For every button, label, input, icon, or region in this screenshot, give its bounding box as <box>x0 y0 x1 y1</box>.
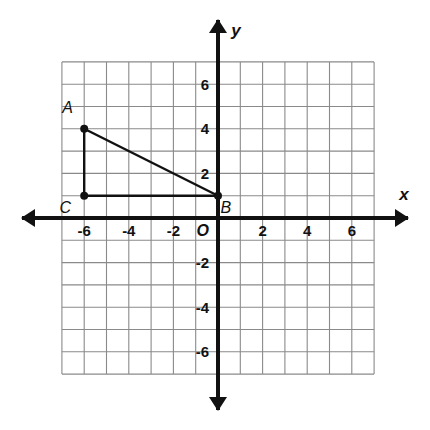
x-axis-arrow-right <box>395 209 409 227</box>
y-tick-label: 6 <box>201 76 209 93</box>
x-axis-arrow-left <box>21 209 35 227</box>
origin-label: O <box>197 222 210 239</box>
y-axis-arrow-up <box>209 19 227 33</box>
y-tick-label: 4 <box>201 120 210 137</box>
point-label-a: A <box>61 99 73 116</box>
y-tick-label: -6 <box>196 343 209 360</box>
x-tick-label: 6 <box>348 222 356 239</box>
coordinate-plane-figure: -6-4-2246642-2-4-6O xy ABC <box>0 0 430 430</box>
x-tick-label: -4 <box>122 222 136 239</box>
x-tick-label: 2 <box>258 222 266 239</box>
plotted-point-c <box>80 192 88 200</box>
plotted-point-a <box>80 125 88 133</box>
x-tick-label: 4 <box>303 222 312 239</box>
point-label-b: B <box>220 199 231 216</box>
y-axis-arrow-down <box>209 397 227 411</box>
y-tick-label: 2 <box>201 165 209 182</box>
axis-names: xy <box>230 21 410 204</box>
x-tick-label: -6 <box>78 222 91 239</box>
y-tick-label: -2 <box>196 254 209 271</box>
y-tick-label: -4 <box>196 299 210 316</box>
y-axis-label: y <box>230 21 242 40</box>
x-axis-label: x <box>398 185 410 204</box>
x-tick-label: -2 <box>167 222 180 239</box>
coordinate-plane-svg: -6-4-2246642-2-4-6O xy ABC <box>0 0 430 430</box>
point-label-c: C <box>59 199 71 216</box>
